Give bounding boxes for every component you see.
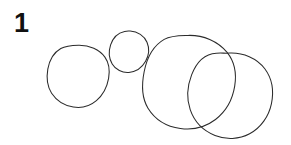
circle-4-path (188, 53, 273, 138)
sketch-canvas: 1 (0, 0, 291, 145)
sketch-drawing (0, 0, 291, 145)
circle-1-path (47, 45, 109, 107)
circle-2-path (109, 31, 148, 72)
